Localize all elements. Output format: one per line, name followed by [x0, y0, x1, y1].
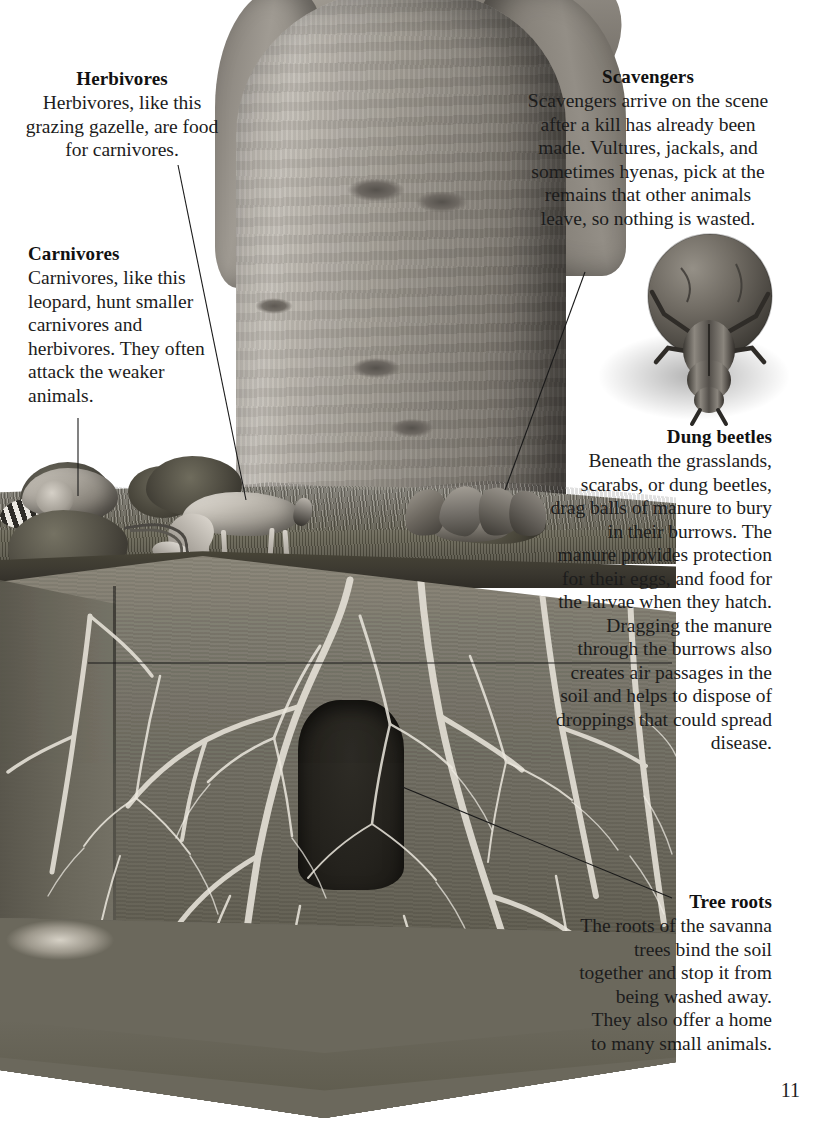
book-page: Herbivores Herbivores, like this grazing…	[0, 0, 828, 1131]
callout-herbivores: Herbivores Herbivores, like this grazing…	[22, 68, 222, 162]
callout-tree-roots: Tree roots The roots of the savanna tree…	[578, 891, 772, 1055]
callout-dung-beetles: Dung beetles Beneath the grasslands, sca…	[548, 426, 772, 755]
callout-body-carnivores: Carnivores, like this leopard, hunt smal…	[28, 266, 208, 407]
callout-heading-tree-roots: Tree roots	[578, 891, 772, 913]
baobab-tree-trunk	[236, 0, 566, 550]
callout-heading-dung-beetles: Dung beetles	[548, 426, 772, 448]
callout-carnivores: Carnivores Carnivores, like this leopard…	[28, 243, 208, 407]
callout-heading-carnivores: Carnivores	[28, 243, 208, 265]
callout-body-scavengers: Scavengers arrive on the scene after a k…	[522, 89, 774, 230]
callout-body-tree-roots: The roots of the savanna trees bind the …	[578, 914, 772, 1055]
callout-body-herbivores: Herbivores, like this grazing gazelle, a…	[22, 91, 222, 162]
page-number: 11	[781, 1079, 800, 1102]
callout-scavengers: Scavengers Scavengers arrive on the scen…	[522, 66, 774, 230]
callout-body-dung-beetles: Beneath the grasslands, scarabs, or dung…	[548, 449, 772, 755]
callout-heading-herbivores: Herbivores	[22, 68, 222, 90]
dung-beetle-with-manure-ball	[586, 228, 828, 438]
callout-heading-scavengers: Scavengers	[522, 66, 774, 88]
